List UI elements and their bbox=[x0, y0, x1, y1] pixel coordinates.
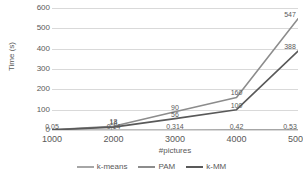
line-chart: Time (s) 0100200300400500600 0,050,140,3… bbox=[0, 0, 303, 177]
data-label: 0,314 bbox=[166, 123, 184, 130]
y-axis-tick-label: 500 bbox=[26, 24, 50, 32]
plot-area: 0,050,140,3140,420,531890160547145610038… bbox=[52, 8, 298, 130]
legend-line-icon bbox=[186, 166, 203, 168]
legend-line-icon bbox=[138, 166, 155, 168]
legend-label: k-MM bbox=[206, 163, 226, 171]
x-axis-tick-label: 2000 bbox=[94, 134, 134, 144]
data-label: 547 bbox=[284, 10, 296, 17]
chart-legend: k-meansPAMk-MM bbox=[0, 160, 303, 174]
series-line bbox=[52, 51, 298, 130]
legend-label: PAM bbox=[158, 163, 175, 171]
data-label: 0,53 bbox=[283, 123, 297, 130]
data-label: 56 bbox=[171, 110, 179, 117]
data-label: 0,05 bbox=[45, 123, 59, 130]
y-axis-tick-label: 600 bbox=[26, 4, 50, 12]
y-axis-title: Time (s) bbox=[7, 27, 16, 87]
legend-label: k-means bbox=[97, 163, 128, 171]
data-label: 388 bbox=[284, 43, 296, 50]
y-axis-tick-label: 300 bbox=[26, 65, 50, 73]
data-label: 14 bbox=[110, 119, 118, 126]
gridline bbox=[52, 130, 298, 131]
legend-item[interactable]: k-MM bbox=[186, 163, 226, 171]
y-axis-tick-label: 400 bbox=[26, 45, 50, 53]
legend-item[interactable]: PAM bbox=[138, 163, 175, 171]
x-axis-title: #pictures bbox=[52, 146, 298, 155]
x-axis-tick-labels: 10002000300040005000 bbox=[52, 134, 298, 146]
data-label: 0,42 bbox=[230, 123, 244, 130]
y-axis-tick-labels: 0100200300400500600 bbox=[26, 8, 50, 130]
data-label: 100 bbox=[231, 101, 243, 108]
x-axis-tick-label: 3000 bbox=[155, 134, 195, 144]
y-axis-tick-label: 100 bbox=[26, 106, 50, 114]
legend-line-icon bbox=[77, 166, 94, 168]
legend-item[interactable]: k-means bbox=[77, 163, 128, 171]
data-label: 160 bbox=[231, 89, 243, 96]
x-axis-tick-label: 1000 bbox=[32, 134, 72, 144]
y-axis-tick-label: 200 bbox=[26, 85, 50, 93]
x-axis-tick-label: 5000 bbox=[278, 134, 303, 144]
x-axis-tick-label: 4000 bbox=[217, 134, 257, 144]
